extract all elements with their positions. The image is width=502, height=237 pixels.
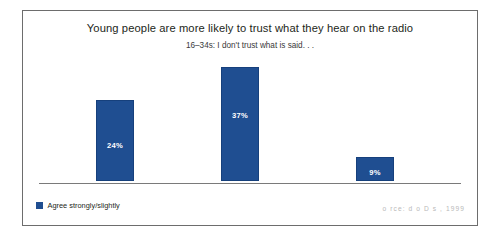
legend-swatch-icon xyxy=(36,202,43,209)
source-note: o rce: d o D s , 1999 xyxy=(383,205,465,212)
plot-area: 24% on TV 37% in newspapers 9% on radio xyxy=(23,11,477,225)
legend-label: Agree strongly/slightly xyxy=(48,201,120,210)
chart-frame: Young people are more likely to trust wh… xyxy=(22,10,478,226)
legend: Agree strongly/slightly xyxy=(36,201,120,210)
bar-value-label: 37% xyxy=(222,111,258,120)
bar-value-label: 24% xyxy=(97,141,133,150)
bar-in-newspapers[interactable]: 37% xyxy=(221,67,259,181)
bar-on-tv[interactable]: 24% xyxy=(96,100,134,181)
bar-value-label: 9% xyxy=(357,168,393,177)
x-axis-line xyxy=(39,183,461,184)
bar-on-radio[interactable]: 9% xyxy=(356,157,394,181)
